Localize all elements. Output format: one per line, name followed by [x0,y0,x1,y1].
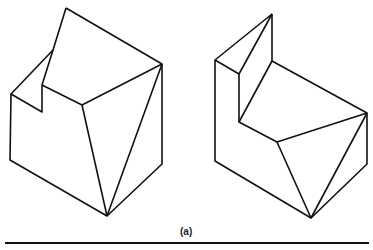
divider-line [5,242,369,244]
edge-line [239,61,272,122]
edge-line [107,64,162,216]
notched-block-left [10,8,162,216]
edge-line [10,8,162,216]
edge-line [42,64,162,105]
edge-line [215,14,367,218]
edge-line [82,105,107,216]
isometric-figure [0,0,373,250]
edge-line [277,142,311,218]
figure-caption: (a) [180,226,192,237]
edge-line [239,14,272,74]
stepped-block-right [215,14,367,218]
